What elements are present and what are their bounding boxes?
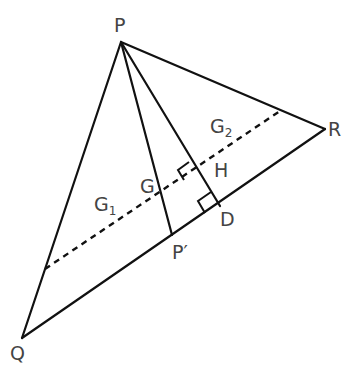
label-p-prime: P′ [172, 243, 188, 262]
label-p: P [114, 16, 125, 35]
label-g: G [140, 177, 155, 196]
label-q: Q [10, 344, 25, 363]
label-g1-base: G [94, 193, 109, 215]
label-g1-sub: 1 [109, 204, 117, 218]
label-r: R [328, 120, 341, 139]
label-d: D [220, 210, 235, 229]
label-h: H [214, 161, 228, 180]
side-qr [22, 129, 325, 338]
label-g2-sub: 2 [225, 126, 233, 140]
triangle-diagram [0, 0, 353, 369]
right-angle-marker-h [178, 162, 189, 180]
altitude-pd [121, 42, 220, 206]
label-g2: G2 [210, 117, 232, 139]
label-g1: G1 [94, 195, 116, 217]
label-g2-base: G [210, 115, 225, 137]
dashed-line-g1-g2 [45, 111, 280, 269]
side-pq [22, 42, 121, 338]
median-pp-prime [121, 42, 172, 235]
